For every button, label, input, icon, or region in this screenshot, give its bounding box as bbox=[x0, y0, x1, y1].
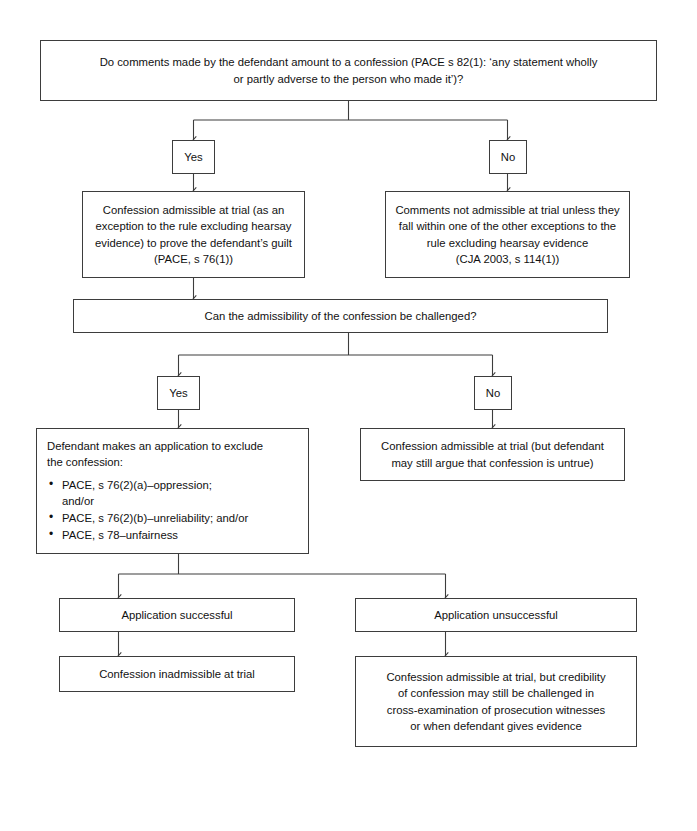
node-application-to-exclude-line1: Defendant makes an application to exclud… bbox=[47, 438, 263, 454]
node-confession-admissible-exception-line4: (PACE, s 76(1)) bbox=[154, 251, 233, 267]
node-credibility-challenged[interactable]: Confession admissible at trial, but cred… bbox=[355, 656, 637, 747]
node-comments-not-admissible-line2: fall within one of the other exceptions … bbox=[399, 218, 616, 234]
list-item: PACE, s 78–unfairness bbox=[47, 527, 248, 543]
node-confession-admissible-exception-line2: exception to the rule excluding hearsay bbox=[96, 218, 292, 234]
node-q2-no-label: No bbox=[486, 385, 500, 401]
node-application-successful[interactable]: Application successful bbox=[59, 598, 295, 632]
node-credibility-challenged-line4: or when defendant gives evidence bbox=[410, 718, 581, 734]
node-application-unsuccessful-label: Application unsuccessful bbox=[434, 607, 558, 623]
node-confession-admissible-exception-line3: evidence) to prove the defendant’s guilt bbox=[95, 235, 292, 251]
ground-main: PACE, s 76(2)(b)–unreliability; and/or bbox=[62, 512, 248, 524]
node-q2-yes-label: Yes bbox=[169, 385, 187, 401]
node-confession-admissible-exception[interactable]: Confession admissible at trial (as an ex… bbox=[82, 191, 305, 278]
ground-main: PACE, s 76(2)(a)–oppression; bbox=[62, 479, 212, 491]
ground-main: PACE, s 78–unfairness bbox=[62, 529, 178, 541]
node-comments-not-admissible-line3: rule excluding hearsay evidence bbox=[427, 235, 588, 251]
node-question-confession-line2: or partly adverse to the person who made… bbox=[234, 71, 464, 87]
node-admissible-argue-untrue-line1: Confession admissible at trial (but defe… bbox=[381, 438, 604, 454]
node-comments-not-admissible[interactable]: Comments not admissible at trial unless … bbox=[385, 191, 630, 278]
node-admissible-argue-untrue-line2: may still argue that confession is untru… bbox=[391, 455, 593, 471]
list-item: PACE, s 76(2)(a)–oppression; and/or bbox=[47, 477, 248, 509]
node-confession-admissible-exception-line1: Confession admissible at trial (as an bbox=[103, 202, 284, 218]
node-q2-no[interactable]: No bbox=[474, 376, 512, 410]
node-question-confession[interactable]: Do comments made by the defendant amount… bbox=[40, 40, 657, 101]
list-item: PACE, s 76(2)(b)–unreliability; and/or bbox=[47, 510, 248, 526]
node-comments-not-admissible-line1: Comments not admissible at trial unless … bbox=[395, 202, 619, 218]
node-confession-inadmissible[interactable]: Confession inadmissible at trial bbox=[59, 656, 295, 692]
node-q1-yes[interactable]: Yes bbox=[172, 140, 215, 174]
node-admissible-argue-untrue[interactable]: Confession admissible at trial (but defe… bbox=[360, 428, 625, 481]
node-application-unsuccessful[interactable]: Application unsuccessful bbox=[355, 598, 637, 632]
node-q2-yes[interactable]: Yes bbox=[157, 376, 200, 410]
node-confession-inadmissible-label: Confession inadmissible at trial bbox=[99, 666, 255, 682]
node-question-challenge-line1: Can the admissibility of the confession … bbox=[205, 308, 477, 324]
node-credibility-challenged-line2: of confession may still be challenged in bbox=[398, 685, 594, 701]
node-application-to-exclude-line2: the confession: bbox=[47, 454, 123, 470]
application-grounds-list: PACE, s 76(2)(a)–oppression; and/or PACE… bbox=[47, 477, 248, 544]
node-application-to-exclude[interactable]: Defendant makes an application to exclud… bbox=[36, 428, 309, 554]
node-credibility-challenged-line1: Confession admissible at trial, but cred… bbox=[386, 669, 605, 685]
flowchart-canvas: Do comments made by the defendant amount… bbox=[0, 0, 697, 831]
node-q1-no-label: No bbox=[501, 149, 515, 165]
node-application-successful-label: Application successful bbox=[121, 607, 232, 623]
node-question-challenge[interactable]: Can the admissibility of the confession … bbox=[73, 299, 608, 333]
ground-sub: and/or bbox=[62, 493, 248, 509]
node-credibility-challenged-line3: cross-examination of prosecution witness… bbox=[387, 702, 606, 718]
node-q1-no[interactable]: No bbox=[489, 140, 527, 174]
node-question-confession-line1: Do comments made by the defendant amount… bbox=[100, 54, 598, 70]
node-q1-yes-label: Yes bbox=[184, 149, 202, 165]
node-comments-not-admissible-line4: (CJA 2003, s 114(1)) bbox=[456, 251, 559, 267]
